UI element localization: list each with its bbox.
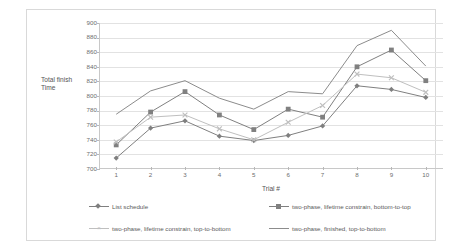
legend-key-diamond-icon xyxy=(89,202,109,210)
chart-series-layer xyxy=(99,23,443,169)
x-tick-mark xyxy=(426,167,427,170)
y-tick-label: 860 xyxy=(55,49,97,55)
x-tick-label: 8 xyxy=(346,171,368,178)
data-point-marker-square xyxy=(148,110,153,115)
y-tick-label: 820 xyxy=(55,78,97,84)
y-tick-label: 840 xyxy=(55,64,97,70)
series-1 xyxy=(114,83,429,160)
y-tick-mark xyxy=(97,169,100,170)
x-tick-mark xyxy=(116,167,117,170)
legend-item[interactable]: two-phase, finished, top-to-bottom xyxy=(269,224,386,232)
x-tick-label: 1 xyxy=(105,171,127,178)
legend-label: List schedule xyxy=(112,203,148,210)
data-point-marker-diamond xyxy=(423,95,428,100)
chart-frame: Total finish Time 9008808608408208007807… xyxy=(26,9,436,241)
series-2 xyxy=(114,48,428,148)
x-axis-title: Trial # xyxy=(99,185,443,192)
legend-label: two-phase, finished, top-to-bottom xyxy=(292,225,386,232)
x-tick-mark xyxy=(357,167,358,170)
y-tick-label: 720 xyxy=(55,151,97,157)
x-tick-mark xyxy=(391,167,392,170)
x-tick-mark xyxy=(288,167,289,170)
data-point-marker-square xyxy=(217,113,222,118)
plot-area xyxy=(99,23,443,169)
y-tick-label: 880 xyxy=(55,34,97,40)
series-line xyxy=(116,86,426,158)
y-tick-label: 780 xyxy=(55,107,97,113)
x-tick-mark xyxy=(219,167,220,170)
data-point-marker-square xyxy=(183,89,188,94)
legend-item[interactable]: two-phase, lifetime constrain, bottom-to… xyxy=(269,202,411,210)
data-point-marker-square xyxy=(355,64,360,69)
data-point-marker-x xyxy=(423,90,428,95)
series-4 xyxy=(116,30,426,114)
data-point-marker-x xyxy=(320,103,325,108)
data-point-marker-square xyxy=(389,48,394,53)
data-point-marker-square xyxy=(423,78,428,83)
data-point-marker-square xyxy=(320,115,325,120)
y-tick-label: 760 xyxy=(55,122,97,128)
data-point-marker-diamond xyxy=(389,87,394,92)
x-tick-label: 10 xyxy=(415,171,437,178)
legend-key-none-icon xyxy=(269,224,289,232)
x-tick-mark xyxy=(151,167,152,170)
y-tick-label: 740 xyxy=(55,137,97,143)
legend-item[interactable]: List schedule xyxy=(89,202,148,210)
legend-key-marker: × xyxy=(96,225,102,231)
legend-key-square-icon xyxy=(269,202,289,210)
legend-key-marker xyxy=(95,203,101,209)
data-point-marker-square xyxy=(286,107,291,112)
chart-legend: List scheduletwo-phase, lifetime constra… xyxy=(67,200,454,246)
data-point-marker-x xyxy=(286,120,291,125)
x-tick-label: 9 xyxy=(380,171,402,178)
y-tick-label: 900 xyxy=(55,20,97,26)
x-tick-label: 3 xyxy=(174,171,196,178)
legend-label: two-phase, lifetime constrain, top-to-bo… xyxy=(112,225,231,232)
series-line xyxy=(116,30,426,114)
series-line xyxy=(116,74,426,142)
y-tick-label: 700 xyxy=(55,166,97,172)
data-point-marker-x xyxy=(217,126,222,131)
legend-key-marker xyxy=(276,204,281,209)
x-tick-label: 6 xyxy=(277,171,299,178)
legend-item[interactable]: ×two-phase, lifetime constrain, top-to-b… xyxy=(89,224,231,232)
x-axis-ticks: 12345678910 xyxy=(99,171,443,183)
x-tick-label: 2 xyxy=(140,171,162,178)
x-tick-label: 7 xyxy=(312,171,334,178)
legend-key-line xyxy=(269,228,289,229)
data-point-marker-diamond xyxy=(217,134,222,139)
data-point-marker-square xyxy=(251,127,256,132)
legend-label: two-phase, lifetime constrain, bottom-to… xyxy=(292,203,411,210)
x-tick-label: 5 xyxy=(243,171,265,178)
legend-key-x-icon: × xyxy=(89,224,109,232)
y-axis-ticks: 900880860840820800780760740720700 xyxy=(49,23,97,169)
x-tick-mark xyxy=(185,167,186,170)
x-tick-label: 4 xyxy=(208,171,230,178)
series-3 xyxy=(114,72,428,145)
y-tick-label: 800 xyxy=(55,93,97,99)
x-tick-mark xyxy=(254,167,255,170)
data-point-marker-diamond xyxy=(182,118,187,123)
x-tick-mark xyxy=(323,167,324,170)
data-point-marker-diamond xyxy=(286,133,291,138)
